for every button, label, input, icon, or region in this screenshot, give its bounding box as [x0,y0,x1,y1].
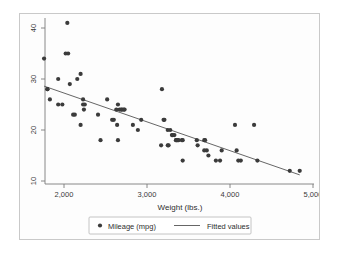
scatter-point [112,118,116,122]
scatter-point [115,123,119,127]
scatter-point [116,102,120,106]
scatter-point [45,87,49,91]
y-tick-label-20: 20 [29,126,38,134]
legend-label-fitted: Fitted values [207,222,250,231]
x-tick-label-2000: 2,000 [55,190,74,199]
figure-root: 40 30 20 10 2,000 3,000 4,000 5,000 Weig… [0,0,339,256]
x-tick-label-4000: 4,000 [221,190,240,199]
scatter-point [206,153,210,157]
scatter-point [196,143,200,147]
scatter-point [42,57,46,61]
scatter-point [181,159,185,163]
scatter-point [79,72,83,76]
scatter-point [56,102,60,106]
scatter-point [122,108,126,112]
scatter-point [82,108,86,112]
scatter-point [65,21,69,25]
y-tick-labels: 40 30 20 10 [29,24,38,185]
scatter-point [195,138,199,142]
scatter-point [252,123,256,127]
scatter-point [98,138,102,142]
scatter-point [214,159,218,163]
scatter-points [42,21,302,173]
scatter-point [288,169,292,173]
legend-dot-marker [98,223,102,227]
legend: Mileage (mpg) Fitted values [89,217,251,234]
scatter-point [83,102,87,106]
plot-frame: 40 30 20 10 2,000 3,000 4,000 5,000 Weig… [19,13,320,240]
scatter-point [235,148,239,152]
x-tick-marks [64,184,313,188]
scatter-point [181,138,185,142]
y-tick-label-30: 30 [29,75,38,83]
scatter-point [79,123,83,127]
scatter-point [159,143,163,147]
scatter-point [203,138,207,142]
x-tick-labels: 2,000 3,000 4,000 5,000 [55,190,319,199]
scatter-point [73,113,77,117]
scatter-point [166,143,170,147]
scatter-point [96,113,100,117]
scatter-point [202,148,206,152]
scatter-plot: 40 30 20 10 2,000 3,000 4,000 5,000 Weig… [20,14,319,239]
scatter-point [172,133,176,137]
scatter-point [162,118,166,122]
legend-label-mileage: Mileage (mpg) [108,222,156,231]
scatter-point [136,128,140,132]
x-tick-label-3000: 3,000 [138,190,157,199]
scatter-point [81,97,85,101]
scatter-point [298,169,302,173]
scatter-point [66,51,70,55]
y-tick-marks [41,28,45,181]
scatter-point [48,97,52,101]
scatter-point [255,159,259,163]
x-axis-title: Weight (lbs.) [158,203,203,212]
x-tick-label-5000: 5,000 [304,190,319,199]
scatter-point [68,82,72,86]
y-tick-label-10: 10 [29,177,38,185]
scatter-point [218,159,222,163]
y-tick-label-40: 40 [29,24,38,32]
scatter-point [60,102,64,106]
scatter-point [220,148,224,152]
scatter-point [131,123,135,127]
scatter-point [75,77,79,81]
scatter-point [168,128,172,132]
scatter-point [239,159,243,163]
scatter-point [56,77,60,81]
scatter-point [116,138,120,142]
scatter-point [139,118,143,122]
scatter-point [233,123,237,127]
scatter-point [160,87,164,91]
scatter-point [105,97,109,101]
